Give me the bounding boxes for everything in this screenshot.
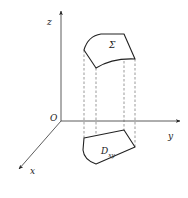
surface-label: Σ [108, 40, 116, 50]
region-label-sub: xy [108, 151, 115, 159]
y-axis-label: y [167, 131, 174, 141]
z-axis-label: z [46, 17, 52, 27]
x-axis [19, 121, 61, 169]
surface-projection-diagram: z y x O Σ Dxy [0, 0, 188, 198]
origin-label: O [50, 113, 58, 123]
projection-region-dxy [83, 130, 135, 164]
x-axis-label: x [30, 166, 35, 176]
region-label-main: D [100, 146, 108, 156]
